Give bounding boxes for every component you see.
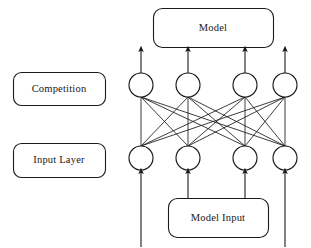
neuron-node xyxy=(129,146,153,170)
diagram-canvas xyxy=(0,0,311,248)
model-box xyxy=(154,9,274,48)
model_input-box xyxy=(169,199,269,238)
neuron-node xyxy=(233,73,257,97)
boxes-group xyxy=(14,9,274,238)
input_layer-box xyxy=(14,144,106,178)
competition-box xyxy=(14,73,106,106)
neuron-node xyxy=(129,73,153,97)
neuron-node xyxy=(176,73,200,97)
connection-edges-group xyxy=(141,97,285,146)
neuron-node xyxy=(233,146,257,170)
neuron-node xyxy=(273,73,297,97)
neuron-node xyxy=(273,146,297,170)
neuron-node xyxy=(176,146,200,170)
diagram-root: Model Competition Input Layer Model Inpu… xyxy=(0,0,311,248)
